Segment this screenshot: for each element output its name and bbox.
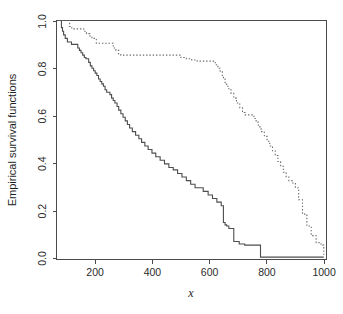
y-tick-label-5: 1.0 xyxy=(36,14,48,29)
x-tick-label-1: 400 xyxy=(144,266,162,278)
y-tick-label-2: 0.4 xyxy=(36,156,48,171)
y-axis-title: Empirical survival functions xyxy=(6,73,18,206)
x-tick-label-2: 600 xyxy=(201,266,219,278)
y-tick-label-1: 0.2 xyxy=(36,204,48,219)
chart-container: 0.0 0.2 0.4 0.6 0.8 1.0 200 400 600 800 … xyxy=(0,0,343,314)
x-axis-title: x xyxy=(187,286,194,300)
y-tick-label-3: 0.6 xyxy=(36,109,48,124)
x-tick-label-4: 1000 xyxy=(312,266,336,278)
x-tick-label-0: 200 xyxy=(86,266,104,278)
y-tick-label-4: 0.8 xyxy=(36,61,48,76)
plot-background xyxy=(0,0,343,314)
empirical-survival-plot: 0.0 0.2 0.4 0.6 0.8 1.0 200 400 600 800 … xyxy=(0,0,343,314)
x-tick-label-3: 800 xyxy=(258,266,276,278)
y-tick-label-0: 0.0 xyxy=(36,251,48,266)
